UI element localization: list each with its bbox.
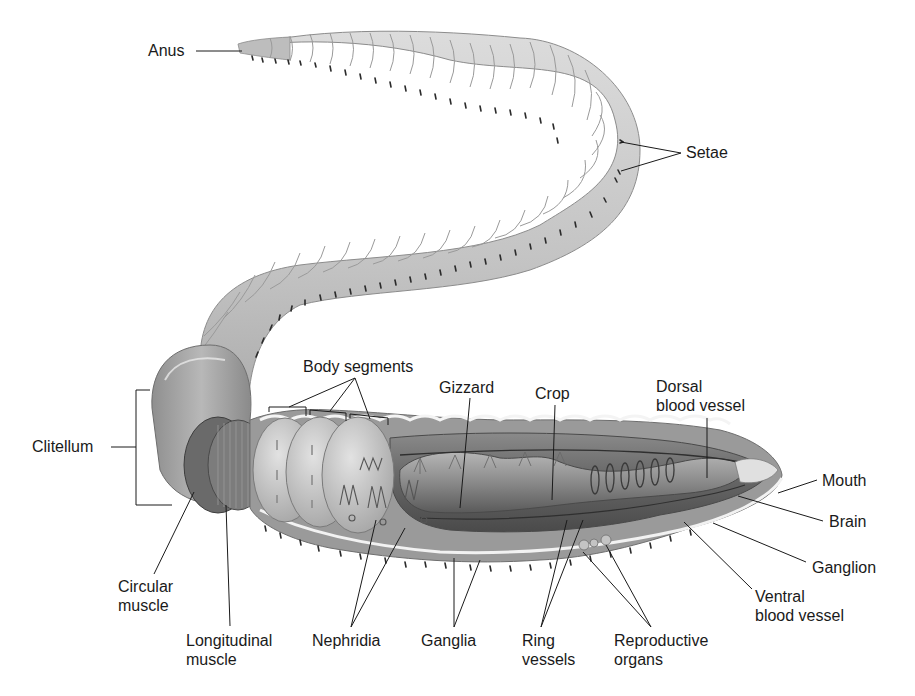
earthworm-diagram: Anus Setae Body segments Gizzard Crop Do… (0, 0, 915, 696)
label-crop: Crop (535, 384, 570, 403)
label-brain: Brain (829, 512, 866, 531)
label-longitudinal-muscle: Longitudinal muscle (186, 631, 272, 669)
label-ganglion: Ganglion (812, 558, 876, 577)
label-gizzard: Gizzard (439, 378, 494, 397)
label-setae: Setae (686, 143, 728, 162)
label-ventral-blood-vessel: Ventral blood vessel (755, 587, 844, 625)
label-ganglia: Ganglia (421, 631, 476, 650)
label-ring-vessels: Ring vessels (522, 631, 575, 669)
label-reproductive-organs: Reproductive organs (614, 631, 708, 669)
label-circular-muscle: Circular muscle (118, 577, 173, 615)
label-body-segments: Body segments (303, 357, 413, 376)
label-nephridia: Nephridia (312, 631, 380, 650)
segment-discs (253, 417, 394, 533)
label-dorsal-blood-vessel: Dorsal blood vessel (656, 377, 745, 415)
label-clitellum: Clitellum (32, 437, 93, 456)
label-anus: Anus (148, 41, 184, 60)
label-mouth: Mouth (822, 471, 866, 490)
